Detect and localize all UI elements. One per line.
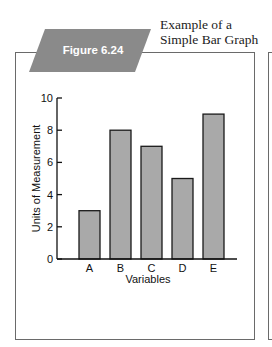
x-tick-label: B	[117, 262, 124, 274]
bar-d	[172, 179, 193, 260]
bar-chart: ABCDE0246810VariablesUnits of Measuremen…	[0, 0, 272, 347]
bar-a	[79, 211, 100, 259]
y-tick-label: 6	[47, 156, 53, 168]
chart-canvas: ABCDE0246810VariablesUnits of Measuremen…	[0, 0, 272, 347]
bar-c	[141, 146, 162, 259]
x-tick-label: D	[179, 262, 187, 274]
y-tick-label: 10	[41, 92, 53, 104]
bar-e	[203, 114, 224, 259]
y-tick-label: 8	[47, 124, 53, 136]
y-tick-label: 2	[47, 221, 53, 233]
y-tick-label: 4	[47, 189, 53, 201]
bar-b	[110, 130, 131, 259]
x-axis-label: Variables	[125, 273, 171, 285]
y-tick-label: 0	[47, 253, 53, 265]
x-tick-label: E	[210, 262, 217, 274]
x-tick-label: A	[86, 262, 94, 274]
y-axis-label: Units of Measurement	[30, 125, 42, 233]
